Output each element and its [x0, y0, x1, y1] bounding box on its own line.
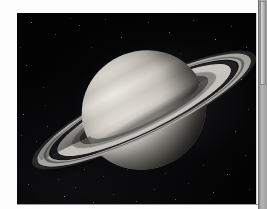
- scrollbar-thumb[interactable]: [260, 1, 266, 85]
- star-points: [17, 13, 18, 14]
- document-page: [0, 0, 258, 209]
- saturn-photo[interactable]: [17, 13, 257, 205]
- vertical-scrollbar[interactable]: [258, 0, 267, 209]
- page-divider-rule: [17, 204, 258, 205]
- saturn-system: [17, 13, 257, 205]
